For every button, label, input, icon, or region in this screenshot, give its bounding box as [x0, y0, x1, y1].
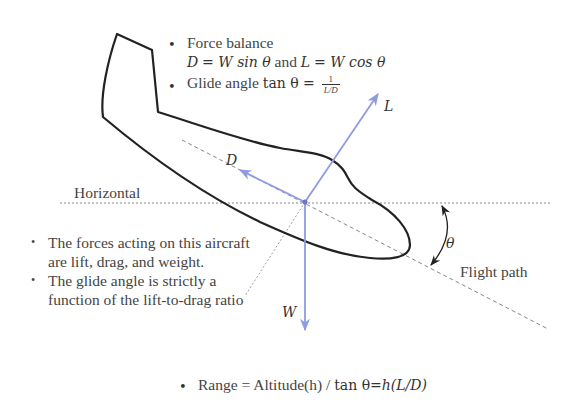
drag-label: D [226, 152, 237, 168]
lift-vector [305, 94, 378, 202]
center-of-gravity [303, 200, 308, 205]
left-bullet-list: • The forces acting on this aircraft are… [48, 233, 263, 309]
list-item: • The glide angle is strictly a function… [48, 271, 263, 309]
bullet-glide-angle: • [168, 79, 176, 94]
bullet: • [31, 233, 35, 252]
list-item: • The forces acting on this aircraft are… [48, 233, 263, 271]
horizontal-label: Horizontal [74, 183, 140, 202]
bullet-range: • [179, 379, 187, 394]
lift-label: L [384, 98, 393, 114]
range-formula: Range = Altitude(h) / tan θ=h(L/D) [198, 375, 427, 395]
weight-label: W [282, 304, 296, 320]
theta-arc [431, 206, 447, 265]
bullet: • [31, 271, 35, 290]
flight-path-label: Flight path [460, 262, 528, 281]
glide-angle-equation: Glide angle tan θ = 1 L/D [187, 73, 340, 95]
theta-label: θ [446, 235, 454, 251]
force-balance-label: Force balance [187, 33, 274, 52]
bullet-force-balance: • [168, 37, 176, 52]
force-balance-equation: D = W sin θ and L = W cos θ [187, 52, 385, 72]
glide-angle-fraction: 1 L/D [322, 74, 340, 95]
drag-vector [240, 170, 305, 202]
